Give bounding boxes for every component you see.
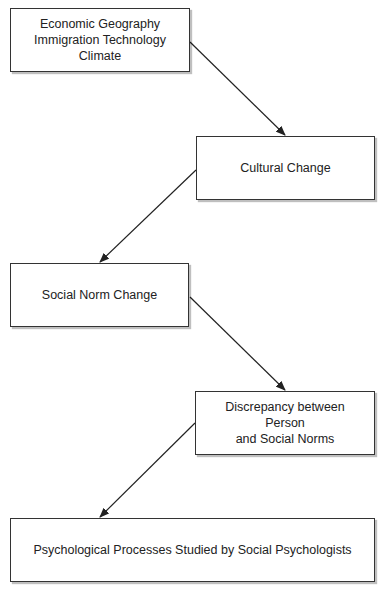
node-text: Cultural Change xyxy=(240,160,330,176)
node-text: Climate xyxy=(34,48,166,64)
node-text: Social Norm Change xyxy=(42,287,157,303)
node-psych-processes: Psychological Processes Studied by Socia… xyxy=(10,518,375,582)
node-text: Person xyxy=(225,415,345,431)
node-text: Immigration Technology xyxy=(34,32,166,48)
node-cultural-change: Cultural Change xyxy=(196,136,375,200)
node-drivers: Economic Geography Immigration Technolog… xyxy=(10,8,190,72)
arrow-discrepancy-to-psych xyxy=(100,423,195,517)
arrow-drivers-to-cultural xyxy=(190,42,285,135)
node-discrepancy: Discrepancy between Person and Social No… xyxy=(195,391,375,455)
arrow-cultural-to-norm xyxy=(100,170,196,262)
node-text: Economic Geography xyxy=(34,16,166,32)
node-text: Psychological Processes Studied by Socia… xyxy=(33,542,351,558)
node-text: Discrepancy between xyxy=(225,399,345,415)
arrow-norm-to-discrepancy xyxy=(190,297,285,390)
node-text: and Social Norms xyxy=(225,431,345,447)
node-social-norm-change: Social Norm Change xyxy=(10,263,189,327)
